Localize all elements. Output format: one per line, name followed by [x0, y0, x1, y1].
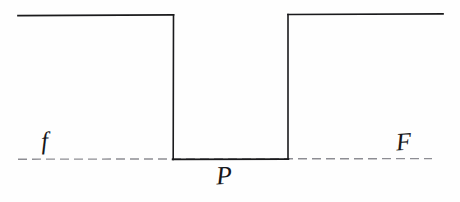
label-left-level-f: f — [40, 128, 48, 153]
label-right-level-F: F — [395, 128, 412, 154]
surface-line-left — [18, 15, 174, 16]
surface-line-right — [288, 14, 443, 15]
figure-canvas: f F P — [0, 0, 460, 202]
label-well-bottom-P: P — [215, 163, 232, 190]
